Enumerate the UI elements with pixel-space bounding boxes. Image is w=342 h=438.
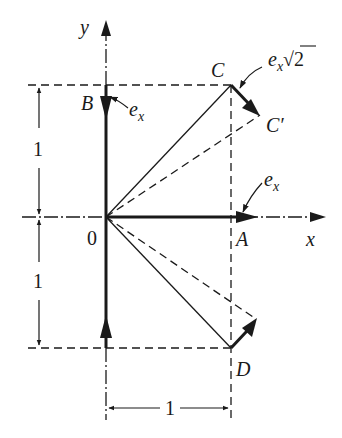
ex-label-B: ex [129, 98, 145, 124]
segment-OD [106, 217, 231, 348]
ex-label-A: ex [264, 168, 280, 194]
leader-ex-B [110, 97, 128, 108]
y-axis-arrow-icon [101, 20, 111, 36]
point-C-prime-label: C′ [266, 114, 284, 136]
arrow-up-lower-icon [100, 315, 112, 338]
arrow-ex-at-A-icon [236, 211, 258, 223]
x-axis-arrow-icon [310, 212, 326, 222]
arrow-D-to-D-prime [231, 331, 247, 348]
segment-OD-prime [106, 217, 256, 319]
dim-left-upper-value: 1 [33, 138, 43, 160]
point-D-label: D [235, 358, 251, 380]
leader-ex-sqrt2-C [240, 67, 262, 88]
dim-bottom-value: 1 [165, 397, 175, 419]
origin-label: 0 [87, 227, 97, 249]
segment-OC-prime [106, 115, 260, 217]
x-axis-label: x [305, 228, 315, 250]
vector-diagram: y x 0 B C C′ A D ex ex ex√2 1 1 1 [0, 0, 342, 438]
point-A-label: A [234, 228, 249, 250]
y-axis-label: y [78, 16, 89, 39]
ex-sqrt2-label-C: ex√2 [268, 48, 304, 74]
arrow-down-at-B-icon [100, 96, 112, 120]
dim-left-lower-value: 1 [33, 270, 43, 292]
point-B-label: B [81, 92, 93, 114]
leader-ex-A [243, 183, 262, 212]
point-C-label: C [211, 59, 225, 81]
